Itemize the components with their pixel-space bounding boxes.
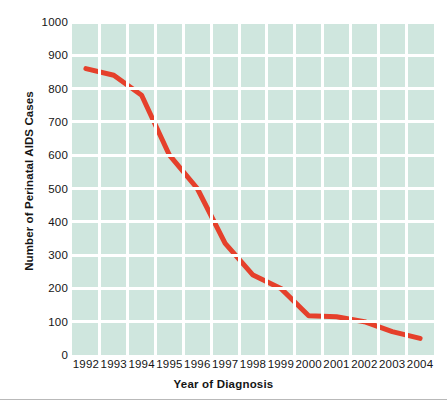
gridline-vertical — [265, 22, 268, 355]
x-axis-tick-label: 2004 — [400, 358, 440, 370]
y-axis-tick-labels: 01002003004005006007008009001000 — [28, 0, 68, 414]
gridline-vertical — [238, 22, 241, 355]
x-axis-title: Year of Diagnosis — [0, 378, 447, 390]
y-axis-tick-label: 700 — [32, 116, 68, 128]
gridline-vertical — [154, 22, 157, 355]
gridline-vertical — [349, 22, 352, 355]
chart-figure: Number of Perinatal AIDS Cases 010020030… — [0, 0, 447, 414]
y-axis-tick-label: 0 — [32, 349, 68, 361]
x-axis-tick-labels: 1992199319941995199619971998199920002001… — [72, 358, 434, 376]
y-axis-tick-label: 100 — [32, 316, 68, 328]
plot-area — [72, 22, 434, 355]
y-axis-tick-label: 500 — [32, 183, 68, 195]
gridline-vertical — [377, 22, 380, 355]
y-axis-tick-label: 1000 — [32, 16, 68, 28]
gridline-vertical — [126, 22, 129, 355]
y-axis-tick-label: 400 — [32, 216, 68, 228]
y-axis-tick-label: 300 — [32, 249, 68, 261]
gridline-vertical — [210, 22, 213, 355]
gridline-vertical — [405, 22, 408, 355]
y-axis-tick-label: 600 — [32, 149, 68, 161]
gridline-vertical — [98, 22, 101, 355]
gridline-vertical — [293, 22, 296, 355]
y-axis-tick-label: 800 — [32, 83, 68, 95]
gridline-vertical — [321, 22, 324, 355]
gridline-vertical — [182, 22, 185, 355]
footer-divider — [0, 399, 447, 400]
y-axis-tick-label: 900 — [32, 49, 68, 61]
y-axis-tick-label: 200 — [32, 282, 68, 294]
data-line — [86, 69, 420, 339]
